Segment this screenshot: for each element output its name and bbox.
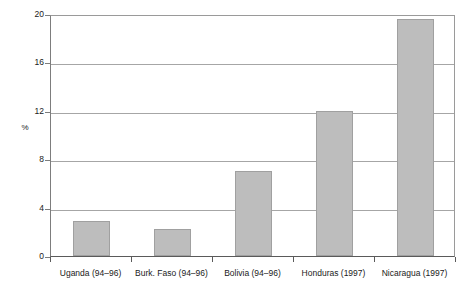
- bar: [235, 171, 272, 256]
- x-axis-tick-mark: [374, 257, 375, 262]
- x-axis-tick-mark: [455, 257, 456, 262]
- bar-chart-figure: % 201612840 Uganda (94–96)Burk. Faso (94…: [0, 0, 474, 290]
- y-axis-tick-label: 4: [18, 204, 44, 213]
- y-axis-tick-label: 8: [18, 155, 44, 164]
- bar: [73, 221, 110, 256]
- y-axis-tick-label: 20: [18, 10, 44, 19]
- gridline: [51, 64, 454, 65]
- x-axis-category-label: Uganda (94–96): [50, 268, 131, 278]
- x-axis-tick-mark: [212, 257, 213, 262]
- bar: [397, 19, 434, 256]
- x-axis-category-label: Burk. Faso (94–96): [131, 268, 212, 278]
- x-axis-category-label: Nicaragua (1997): [374, 268, 455, 278]
- y-axis-tick-label: 12: [18, 107, 44, 116]
- y-axis-title: %: [12, 123, 38, 133]
- plot-area: [50, 15, 455, 257]
- x-axis-tick-mark: [131, 257, 132, 262]
- x-axis-tick-mark: [50, 257, 51, 262]
- y-axis-tick-label: 0: [18, 252, 44, 261]
- x-axis-category-label: Honduras (1997): [293, 268, 374, 278]
- y-axis-tick-label: 16: [18, 58, 44, 67]
- x-axis-tick-mark: [293, 257, 294, 262]
- gridline: [51, 113, 454, 114]
- gridline: [51, 161, 454, 162]
- bar: [154, 229, 191, 256]
- x-axis-category-label: Bolivia (94–96): [212, 268, 293, 278]
- bar: [316, 111, 353, 256]
